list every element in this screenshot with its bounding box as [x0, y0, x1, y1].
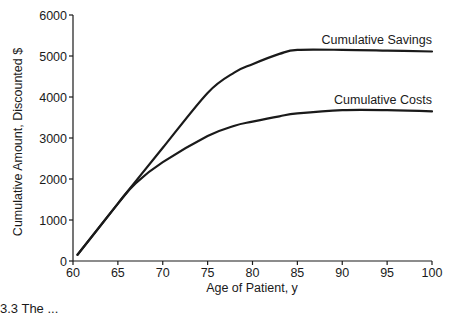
- x-tick-label: 95: [380, 266, 394, 280]
- x-axis: 6065707580859095100: [66, 261, 442, 280]
- cumulative-savings-label: Cumulative Savings: [322, 33, 432, 47]
- cumulative-costs-label: Cumulative Costs: [334, 93, 432, 107]
- x-tick-label: 100: [422, 266, 443, 280]
- y-tick-label: 5000: [39, 50, 67, 64]
- y-tick-label: 2000: [39, 173, 67, 187]
- x-tick-label: 80: [246, 266, 260, 280]
- figure-caption-partial: 3.3 The ...: [0, 301, 58, 316]
- y-axis-title: Cumulative Amount, Discounted $: [11, 48, 25, 236]
- plot-lines: Cumulative SavingsCumulative Costs: [78, 33, 433, 254]
- y-tick-label: 3000: [39, 132, 67, 146]
- x-tick-label: 85: [290, 266, 304, 280]
- x-axis-title: Age of Patient, y: [206, 281, 298, 295]
- y-tick-label: 4000: [39, 91, 67, 105]
- x-tick-label: 60: [66, 266, 80, 280]
- x-tick-label: 65: [111, 266, 125, 280]
- x-tick-label: 75: [201, 266, 215, 280]
- y-tick-label: 1000: [39, 214, 67, 228]
- cumulative-costs-line: [78, 110, 433, 255]
- cumulative-savings-line: [78, 50, 433, 255]
- y-tick-label: 6000: [39, 9, 67, 23]
- x-tick-label: 90: [335, 266, 349, 280]
- x-tick-label: 70: [156, 266, 170, 280]
- y-axis: 0100020003000400050006000: [39, 9, 73, 269]
